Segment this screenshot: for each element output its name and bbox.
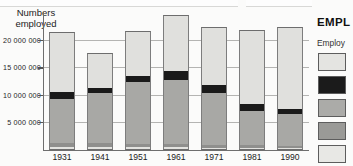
y-axis-tick bbox=[38, 40, 43, 41]
legend-swatch-3 bbox=[318, 99, 346, 117]
x-axis-label-1961: 1961 bbox=[157, 152, 195, 162]
bar-segment-segment-2 bbox=[239, 145, 265, 147]
x-axis-label-1981: 1981 bbox=[233, 152, 271, 162]
bar-1990 bbox=[277, 27, 303, 149]
x-axis-label-1941: 1941 bbox=[81, 152, 119, 162]
bar-1961 bbox=[163, 15, 189, 149]
bar-segment-segment-3 bbox=[125, 82, 151, 144]
bar-segment-segment-3 bbox=[239, 111, 265, 145]
bar-segment-segment-3 bbox=[163, 80, 189, 144]
bar-segment-segment-4 bbox=[49, 92, 75, 99]
bar-segment-segment-2 bbox=[125, 144, 151, 147]
x-axis-tick-labels: 1931194119511961197119811990 bbox=[43, 152, 309, 166]
bar-1941 bbox=[87, 53, 113, 150]
x-axis-label-1951: 1951 bbox=[119, 152, 157, 162]
x-axis-label-1990: 1990 bbox=[271, 152, 309, 162]
legend-swatch-1 bbox=[318, 53, 346, 71]
bar-segment-segment-2 bbox=[87, 143, 113, 147]
bar-segment-segment-1-base bbox=[49, 147, 75, 150]
bar-segment-segment-3 bbox=[201, 93, 227, 145]
x-axis-label-1971: 1971 bbox=[195, 152, 233, 162]
legend-subtitle: Employ bbox=[317, 38, 345, 48]
y-axis-tick bbox=[38, 122, 43, 123]
y-axis-tick-label: 15 000 000 bbox=[3, 63, 41, 72]
bar-segment-segment-5-top bbox=[239, 30, 265, 104]
bar-segment-segment-4 bbox=[201, 85, 227, 94]
legend-swatch-2 bbox=[318, 76, 346, 94]
x-axis-line bbox=[43, 150, 309, 151]
bar-segment-segment-4 bbox=[277, 109, 303, 114]
bar-segment-segment-5-top bbox=[87, 53, 113, 88]
y-axis-tick bbox=[38, 67, 43, 68]
bar-segment-segment-3 bbox=[277, 114, 303, 146]
bar-segment-segment-5-top bbox=[49, 32, 75, 92]
y-axis-tick-label: 5 000 000 bbox=[7, 118, 41, 127]
bar-segment-segment-2 bbox=[163, 144, 189, 147]
bar-segment-segment-5-top bbox=[125, 31, 151, 76]
legend-panel: EMPL Employ bbox=[312, 0, 353, 166]
y-axis-tick bbox=[38, 95, 43, 96]
bar-segment-segment-4 bbox=[239, 104, 265, 111]
bar-segment-segment-1-base bbox=[201, 148, 227, 150]
bar-1971 bbox=[201, 27, 227, 150]
bar-segment-segment-1-base bbox=[239, 148, 265, 150]
bar-segment-segment-4 bbox=[125, 76, 151, 82]
y-axis-tick-labels: 20 000 00015 000 00010 000 0005 000 000 bbox=[0, 12, 41, 151]
bar-segment-segment-4 bbox=[163, 71, 189, 80]
bar-segment-segment-2 bbox=[201, 145, 227, 148]
legend-swatch-5 bbox=[318, 145, 346, 163]
legend-title: EMPL bbox=[317, 16, 351, 28]
bar-1931 bbox=[49, 32, 75, 150]
y-axis-line bbox=[43, 12, 44, 151]
bar-segment-segment-2 bbox=[277, 146, 303, 148]
y-axis-tick-label: 20 000 000 bbox=[3, 36, 41, 45]
bar-segment-segment-1-base bbox=[163, 147, 189, 149]
plot-area bbox=[43, 12, 309, 151]
bar-segment-segment-2 bbox=[49, 143, 75, 147]
bar-segment-segment-5-top bbox=[277, 27, 303, 108]
bar-segment-segment-3 bbox=[49, 99, 75, 143]
bar-segment-segment-3 bbox=[87, 93, 113, 143]
bar-segment-segment-1-base bbox=[277, 148, 303, 150]
y-axis-tick-label: 10 000 000 bbox=[3, 91, 41, 100]
bar-1951 bbox=[125, 31, 151, 150]
bar-segment-segment-5-top bbox=[163, 15, 189, 70]
x-axis-label-1931: 1931 bbox=[43, 152, 81, 162]
stacked-bar-chart: Numbers employed 20 000 00015 000 00010 … bbox=[0, 0, 312, 166]
bar-1981 bbox=[239, 30, 265, 150]
bar-segment-segment-1-base bbox=[125, 147, 151, 149]
legend-swatch-4 bbox=[318, 122, 346, 140]
bar-segment-segment-5-top bbox=[201, 27, 227, 85]
bar-segment-segment-1-base bbox=[87, 147, 113, 149]
bar-segment-segment-4 bbox=[87, 88, 113, 93]
